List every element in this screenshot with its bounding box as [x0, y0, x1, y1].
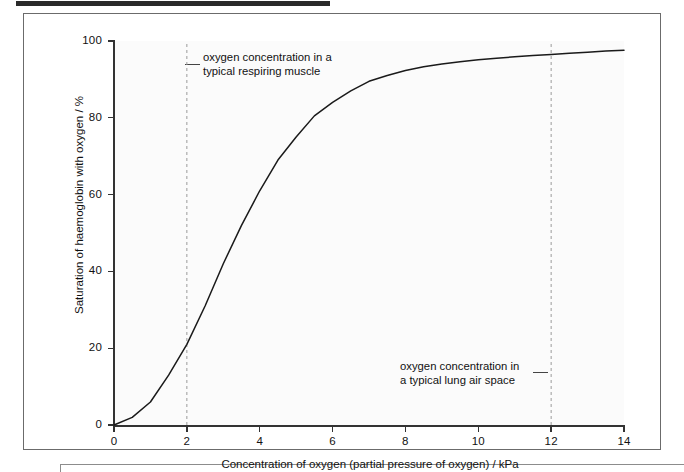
- plot-area: [114, 41, 624, 425]
- x-axis-line: [113, 425, 625, 427]
- figure-frame: Saturation of haemoglobin with oxygen / …: [23, 13, 661, 450]
- y-tick-label-40: 40: [72, 264, 102, 276]
- y-tick-100: [108, 40, 114, 41]
- muscle-annotation: oxygen concentration in a typical respir…: [203, 51, 332, 78]
- muscle-annotation-line2: typical respiring muscle: [203, 65, 332, 79]
- x-tick-label-12: 12: [536, 435, 566, 447]
- y-axis-title: Saturation of haemoglobin with oxygen / …: [73, 55, 85, 355]
- y-tick-label-20: 20: [72, 341, 102, 353]
- x-tick-label-8: 8: [390, 435, 420, 447]
- y-tick-label-100: 100: [72, 34, 102, 46]
- graph-paper-grid: [114, 41, 624, 425]
- x-tick-label-2: 2: [172, 435, 202, 447]
- y-tick-label-60: 60: [72, 188, 102, 200]
- lung-annotation-line1: oxygen concentration in: [400, 360, 519, 374]
- muscle-annotation-leader: [185, 64, 200, 65]
- x-tick-label-14: 14: [609, 435, 639, 447]
- x-tick-4: [259, 426, 260, 432]
- x-tick-label-4: 4: [245, 435, 275, 447]
- x-tick-label-6: 6: [318, 435, 348, 447]
- y-tick-60: [108, 194, 114, 195]
- page-top-rule: [16, 1, 330, 6]
- y-tick-80: [108, 117, 114, 118]
- x-tick-6: [332, 426, 333, 432]
- x-tick-10: [478, 426, 479, 432]
- x-tick-2: [186, 426, 187, 432]
- y-tick-label-0: 0: [72, 418, 102, 430]
- x-tick-label-0: 0: [99, 435, 129, 447]
- x-tick-12: [550, 426, 551, 432]
- y-tick-20: [108, 348, 114, 349]
- lung-annotation-line2: a typical lung air space: [400, 374, 519, 388]
- y-tick-label-80: 80: [72, 111, 102, 123]
- x-tick-label-10: 10: [463, 435, 493, 447]
- x-axis-title: Concentration of oxygen (partial pressur…: [114, 458, 626, 470]
- lung-annotation: oxygen concentration in a typical lung a…: [400, 360, 519, 387]
- x-tick-0: [113, 426, 114, 432]
- muscle-annotation-line1: oxygen concentration in a: [203, 51, 332, 65]
- x-tick-8: [405, 426, 406, 432]
- lung-annotation-leader: [533, 372, 548, 373]
- y-axis-line: [113, 40, 115, 427]
- y-tick-40: [108, 271, 114, 272]
- x-tick-14: [623, 426, 624, 432]
